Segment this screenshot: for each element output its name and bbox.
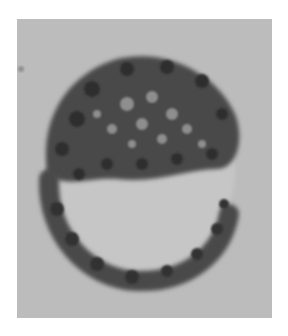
micrograph-panel [17, 19, 272, 318]
speck [18, 66, 24, 72]
cell-illustration [17, 19, 272, 318]
